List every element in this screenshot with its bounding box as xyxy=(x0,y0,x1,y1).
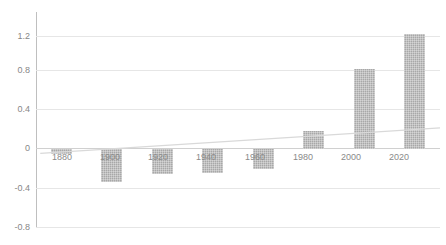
x-tick-label-1880: 1880 xyxy=(52,152,72,163)
gridline-neg0_8 xyxy=(36,227,440,228)
x-tick-label-2020: 2020 xyxy=(389,152,409,163)
y-tick-label-2: 0.8 xyxy=(0,65,30,75)
plot-area xyxy=(36,12,440,228)
x-tick-label-1980: 1980 xyxy=(293,152,313,163)
gridline-neg0_4 xyxy=(36,188,440,189)
y-tick-label-3: 0.4 xyxy=(0,104,30,114)
x-tick-label-1900: 1900 xyxy=(100,152,120,163)
y-tick-label-6: -0.8 xyxy=(0,222,30,232)
gridline-0_4 xyxy=(36,109,440,110)
x-tick-label-1940: 1940 xyxy=(196,152,216,163)
bar-chart: 1.2 0.8 0.4 0 -0.4 -0.8 1880 1900 1920 1… xyxy=(0,0,446,245)
y-tick-label-4: 0 xyxy=(0,143,30,153)
gridline-1_2 xyxy=(36,36,440,37)
trendline xyxy=(36,12,440,228)
y-tick-label-5: -0.4 xyxy=(0,183,30,193)
x-tick-label-2000: 2000 xyxy=(341,152,361,163)
gridline-zero xyxy=(36,148,440,149)
x-tick-label-1960: 1960 xyxy=(245,152,265,163)
x-tick-label-1920: 1920 xyxy=(148,152,168,163)
y-axis-tick-labels: 1.2 0.8 0.4 0 -0.4 -0.8 xyxy=(0,0,32,245)
bar-2000 xyxy=(354,69,375,150)
y-tick-label-1: 1.2 xyxy=(0,31,30,41)
bar-1980 xyxy=(303,131,324,150)
bar-2020 xyxy=(404,34,425,150)
gridline-0_8 xyxy=(36,70,440,71)
